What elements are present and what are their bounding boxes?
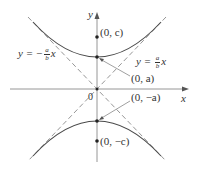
- vertex-bottom-dot: [95, 119, 99, 123]
- origin-label: 0: [88, 92, 93, 102]
- y-axis-arrow-icon: [95, 12, 100, 19]
- vertex-top-label: (0, a): [131, 73, 154, 84]
- vertex-bottom-pointer: [100, 101, 130, 119]
- x-axis-arrow-icon: [182, 87, 189, 92]
- asymptote-left-label: y = −abx: [18, 47, 56, 62]
- vertex-bottom-pointer-arrow-icon: [99, 116, 104, 120]
- vertex-top-dot: [95, 55, 99, 59]
- focus-top-dot: [95, 35, 99, 39]
- focus-bottom-label: (0, −c): [100, 136, 129, 147]
- x-axis-label: x: [181, 93, 186, 104]
- focus-bottom-dot: [95, 139, 99, 143]
- asymptote-right-label: y = abx: [136, 55, 166, 70]
- vertex-top-pointer-arrow-icon: [99, 58, 104, 62]
- focus-top-label: (0, c): [100, 27, 123, 38]
- y-axis-label: y: [88, 9, 93, 20]
- origin-dot: [96, 88, 99, 91]
- vertex-top-pointer: [100, 59, 130, 76]
- vertex-bottom-label: (0, −a): [131, 92, 160, 103]
